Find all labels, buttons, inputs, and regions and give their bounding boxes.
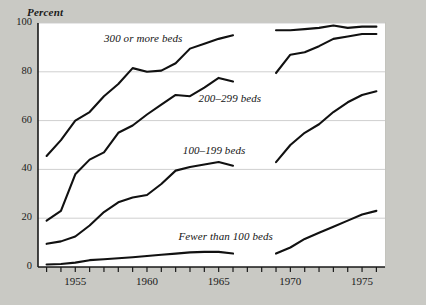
chart-figure: Percent 020406080100 1955196019651970197… [0, 0, 426, 305]
series-label-0: 300 or more beds [104, 32, 183, 44]
series-line-0-segment-1 [276, 25, 376, 30]
y-tick-label: 60 [6, 114, 32, 125]
series-line-2-segment-1 [276, 91, 376, 162]
series-label-1: 200–299 beds [199, 92, 262, 104]
x-tick-label: 1970 [268, 275, 312, 287]
y-tick-label: 40 [6, 162, 32, 173]
x-tick-label: 1965 [197, 275, 241, 287]
y-tick-label: 80 [6, 65, 32, 76]
y-tick-label: 20 [6, 211, 32, 222]
x-tick-label: 1975 [340, 275, 384, 287]
series-label-2: 100–199 beds [183, 144, 246, 156]
series-label-3: Fewer than 100 beds [179, 230, 273, 242]
x-tick-label: 1960 [125, 275, 169, 287]
gridlines [38, 23, 385, 218]
y-tick-label: 100 [6, 16, 32, 27]
y-tick-label: 0 [6, 260, 32, 271]
x-tick-label: 1955 [53, 275, 97, 287]
series-line-3-segment-0 [47, 252, 233, 265]
series-line-1-segment-1 [276, 34, 376, 73]
series-line-3-segment-1 [276, 211, 376, 254]
